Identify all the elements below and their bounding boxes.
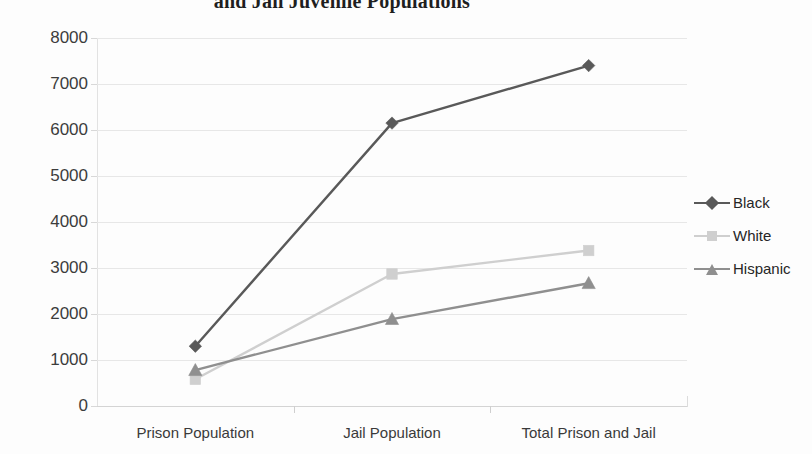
series-black	[189, 59, 595, 352]
legend-item-black[interactable]: Black	[694, 186, 812, 219]
series-hispanic	[189, 277, 596, 376]
legend-marker-diamond-icon	[705, 195, 719, 209]
legend-swatch	[694, 195, 730, 211]
legend-item-label: White	[730, 227, 771, 244]
legend-marker-square-icon	[707, 231, 717, 241]
legend-swatch	[694, 261, 730, 277]
data-point-marker	[583, 245, 594, 256]
legend-swatch	[694, 228, 730, 244]
legend-item-label: Black	[730, 194, 770, 211]
data-point-marker	[387, 269, 398, 280]
series-line	[195, 283, 588, 370]
legend-item-white[interactable]: White	[694, 219, 812, 252]
legend: BlackWhiteHispanic	[694, 186, 812, 285]
data-point-marker	[582, 277, 595, 289]
legend-item-hispanic[interactable]: Hispanic	[694, 252, 812, 285]
series-line	[195, 66, 588, 347]
chart-screenshot: and Jail Juvenile Populations2 800070006…	[0, 0, 812, 454]
data-point-marker	[582, 59, 594, 71]
legend-marker-triangle-icon	[706, 264, 718, 275]
legend-item-label: Hispanic	[730, 260, 791, 277]
series-layer	[0, 0, 812, 454]
